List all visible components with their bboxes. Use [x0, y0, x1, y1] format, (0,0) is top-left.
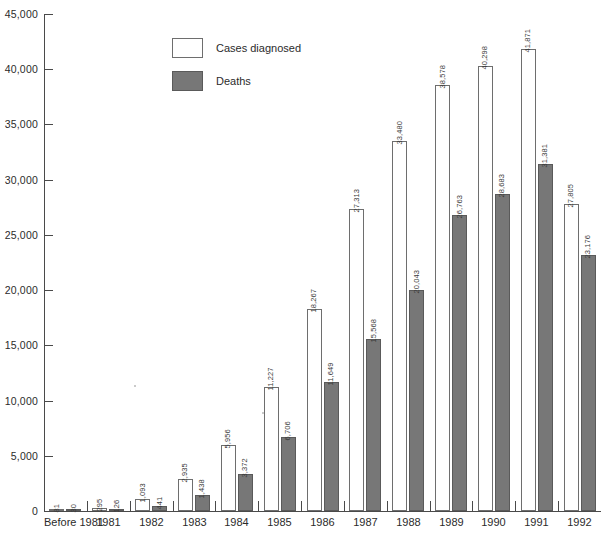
bar-value-label: 33,480: [396, 121, 404, 145]
y-axis-tick-label: 30,000: [5, 175, 38, 186]
x-axis-separator: [130, 501, 131, 511]
x-axis-category-label: 1991: [515, 516, 558, 528]
x-axis-category-label: 1992: [558, 516, 601, 528]
bar-deaths: [281, 437, 296, 511]
bar-cases: [221, 445, 236, 511]
bar-value-label: 1,438: [198, 479, 206, 498]
bar-cases: [478, 66, 493, 511]
y-axis-tick: [45, 69, 53, 70]
bar-value-label: 41,871: [524, 29, 532, 53]
y-axis-tick-label: 40,000: [5, 64, 38, 75]
bar-value-label: 26,763: [456, 195, 464, 219]
bar-deaths: [324, 382, 339, 511]
bar-value-label: 295: [96, 498, 104, 511]
y-axis-tick-label: 35,000: [5, 119, 38, 130]
bar-value-label: 2,935: [181, 463, 189, 482]
bar-deaths: [495, 194, 510, 511]
y-axis-tick-label: 10,000: [5, 396, 38, 407]
legend-label-deaths: Deaths: [216, 75, 251, 87]
y-axis-tick: [45, 235, 53, 236]
x-axis-category-label: 1988: [387, 516, 430, 528]
bar-deaths: [581, 255, 596, 511]
y-axis-tick-label: 5,000: [11, 451, 38, 462]
x-axis-separator: [558, 501, 559, 511]
y-axis-tick: [45, 345, 53, 346]
page-speck: [134, 385, 136, 387]
bar-cases: [521, 49, 536, 511]
page-speck: [262, 412, 264, 414]
bar-value-label: 40,298: [481, 46, 489, 70]
y-axis-tick: [45, 180, 53, 181]
bar-value-label: 20,043: [413, 270, 421, 294]
bar-cases: [435, 85, 450, 511]
bar-cases: [392, 141, 407, 511]
bar-cases: [307, 309, 322, 511]
x-axis-separator: [472, 501, 473, 511]
y-axis-tick: [45, 401, 53, 402]
x-axis-category-label: 1982: [130, 516, 173, 528]
x-axis-category-label: 1983: [173, 516, 216, 528]
x-axis-separator: [344, 501, 345, 511]
x-axis-separator: [430, 501, 431, 511]
x-axis-separator: [301, 501, 302, 511]
y-axis-tick-label: 20,000: [5, 285, 38, 296]
x-axis-category-label: 1989: [430, 516, 473, 528]
bar-deaths: [538, 164, 553, 511]
x-axis-category-label: 1981: [87, 516, 130, 528]
legend-swatch-deaths: [172, 71, 203, 91]
bar-value-label: 27,805: [567, 184, 575, 208]
bar-deaths: [409, 290, 424, 511]
bar-cases: [349, 209, 364, 511]
y-axis-tick: [45, 456, 53, 457]
y-axis-line: [44, 14, 45, 511]
bar-deaths: [452, 215, 467, 511]
bar-value-label: 441: [156, 497, 164, 510]
bar-value-label: 5,956: [224, 429, 232, 448]
bar-deaths: [366, 339, 381, 511]
bar-cases: [264, 387, 279, 511]
legend-swatch-cases-diagnosed: [172, 38, 203, 58]
bar-deaths: [238, 474, 253, 511]
bar-value-label: 18,267: [310, 289, 318, 313]
bar-value-label: 27,313: [353, 189, 361, 213]
bar-value-label: 81: [53, 504, 61, 513]
bar-value-label: 30: [70, 504, 78, 513]
x-axis-category-label: Before 1981: [44, 516, 87, 528]
y-axis-tick-label: 45,000: [5, 9, 38, 20]
y-axis-tick-label: 15,000: [5, 340, 38, 351]
bar-cases: [564, 204, 579, 511]
x-axis-separator: [387, 501, 388, 511]
y-axis-tick: [45, 290, 53, 291]
bar-value-label: 23,176: [584, 235, 592, 259]
x-axis-separator: [215, 501, 216, 511]
y-axis-tick-label: 25,000: [5, 230, 38, 241]
bar-cases: [178, 479, 193, 511]
x-axis-line: [44, 511, 601, 512]
bar-value-label: 6,706: [284, 421, 292, 440]
bar-value-label: 38,578: [439, 65, 447, 89]
bar-value-label: 11,649: [327, 363, 335, 386]
x-axis-separator: [87, 501, 88, 511]
bar-value-label: 11,227: [267, 368, 275, 391]
x-axis-category-label: 1987: [344, 516, 387, 528]
x-axis-category-label: 1985: [258, 516, 301, 528]
x-axis-separator: [258, 501, 259, 511]
bar-value-label: 31,381: [541, 144, 549, 168]
bar-value-label: 28,683: [498, 174, 506, 198]
y-axis-tick: [45, 124, 53, 125]
bar-value-label: 126: [113, 500, 121, 513]
legend-label-cases-diagnosed: Cases diagnosed: [216, 42, 301, 54]
bar-value-label: 15,568: [370, 319, 378, 343]
x-axis-separator: [515, 501, 516, 511]
x-axis-separator: [173, 501, 174, 511]
y-axis-tick-label: 0: [32, 506, 38, 517]
bar-value-label: 1,093: [139, 483, 147, 502]
bar-value-label: 3,372: [241, 458, 249, 477]
chart-legend: Cases diagnosed Deaths: [172, 38, 301, 104]
x-axis-category-label: 1986: [301, 516, 344, 528]
aids-cases-and-deaths-bar-chart: Cases diagnosed Deaths 05,00010,00015,00…: [0, 0, 604, 539]
x-axis-category-label: 1984: [215, 516, 258, 528]
y-axis-tick: [45, 14, 53, 15]
legend-item-deaths: Deaths: [172, 71, 301, 91]
legend-item-cases-diagnosed: Cases diagnosed: [172, 38, 301, 58]
